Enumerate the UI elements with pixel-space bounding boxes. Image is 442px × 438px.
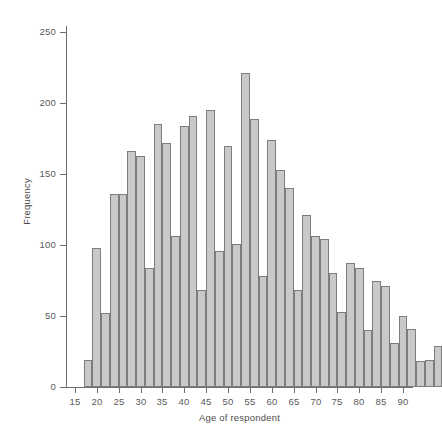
histogram-bar — [329, 273, 338, 387]
histogram-bar — [136, 156, 145, 387]
x-axis-tick-label: 90 — [388, 396, 418, 407]
histogram-bar — [364, 330, 373, 387]
histogram-bar — [407, 329, 416, 387]
histogram-bar — [171, 236, 180, 387]
histogram-bar — [311, 236, 320, 387]
histogram-bar — [250, 119, 259, 387]
y-axis-tick-label: 250 — [0, 27, 56, 37]
histogram-bar — [92, 248, 101, 387]
histogram-bar — [276, 170, 285, 387]
x-axis-tick — [272, 388, 273, 393]
x-axis-tick — [75, 388, 76, 393]
histogram-bar — [390, 343, 399, 387]
histogram-bar — [320, 239, 329, 387]
histogram-bar — [259, 276, 268, 387]
histogram-bar — [154, 124, 163, 387]
histogram-bar — [215, 251, 224, 387]
x-axis-title: Age of respondent — [66, 412, 413, 423]
histogram-bar — [416, 361, 425, 387]
histogram-bar — [127, 151, 136, 387]
histogram-bar — [189, 116, 198, 387]
x-axis-tick — [316, 388, 317, 393]
histogram-bar — [206, 110, 215, 387]
y-axis-tick-label: 0 — [0, 382, 56, 392]
x-axis-tick — [206, 388, 207, 393]
histogram-bar — [372, 281, 381, 388]
histogram-bar — [224, 146, 233, 387]
y-axis-tick-label: 50 — [0, 311, 56, 321]
y-axis-tick — [60, 174, 66, 175]
histogram-bar — [346, 263, 355, 387]
y-axis-tick — [60, 32, 66, 33]
histogram-bar — [232, 244, 241, 387]
histogram-bar — [285, 188, 294, 387]
x-axis-tick — [381, 388, 382, 393]
x-axis-tick — [403, 388, 404, 393]
y-axis-line — [66, 26, 67, 388]
histogram-bar — [267, 140, 276, 387]
histogram-bar — [337, 312, 346, 387]
y-axis-tick — [60, 387, 66, 388]
x-axis-tick — [119, 388, 120, 393]
x-axis-tick — [228, 388, 229, 393]
histogram-bar — [381, 286, 390, 387]
histogram-bar — [180, 126, 189, 387]
histogram-bar — [302, 215, 311, 387]
histogram-bar — [399, 316, 408, 387]
histogram-bar — [197, 290, 206, 387]
histogram-bar — [101, 313, 110, 387]
y-axis-tick — [60, 103, 66, 104]
histogram-bar — [84, 360, 93, 387]
y-axis-title: Frequency — [21, 142, 32, 262]
y-axis-tick-label: 200 — [0, 98, 56, 108]
histogram-bar — [294, 290, 303, 387]
x-axis-tick — [250, 388, 251, 393]
histogram-bar — [241, 73, 250, 387]
x-axis-tick — [97, 388, 98, 393]
histogram-bar — [355, 268, 364, 387]
histogram-bar — [110, 194, 119, 387]
histogram-bar — [425, 360, 434, 387]
y-axis-tick — [60, 316, 66, 317]
x-axis-tick — [184, 388, 185, 393]
x-axis-tick — [141, 388, 142, 393]
x-axis-tick — [294, 388, 295, 393]
histogram-bar — [434, 346, 442, 387]
histogram-bar — [119, 194, 128, 387]
histogram-bar — [145, 268, 154, 387]
x-axis-tick — [337, 388, 338, 393]
x-axis-tick — [162, 388, 163, 393]
x-axis-tick — [359, 388, 360, 393]
y-axis-tick — [60, 245, 66, 246]
histogram-bar — [162, 143, 171, 387]
